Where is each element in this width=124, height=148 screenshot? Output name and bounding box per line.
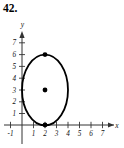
- y-axis-label: y: [20, 20, 25, 29]
- x-tick-label-6: 6: [89, 130, 93, 138]
- coordinate-plot: -1 1 2 3 4 5 6 7 1 2 3 4 5 6 7 x y: [0, 0, 124, 148]
- y-tick-label-1: 1: [12, 110, 16, 118]
- x-tick-label-2: 2: [43, 130, 47, 138]
- axes-group: [4, 31, 114, 144]
- y-tick-label-7: 7: [12, 39, 16, 47]
- x-tick-label-4: 4: [66, 130, 70, 138]
- y-axis-tick-labels: 1 2 3 4 5 6 7: [11, 39, 16, 118]
- y-tick-label-6: 6: [12, 51, 16, 59]
- x-axis-arrowhead: [108, 122, 114, 127]
- x-tick-label--1: -1: [8, 130, 14, 138]
- x-axis-label: x: [114, 121, 119, 130]
- x-tick-label-1: 1: [32, 130, 36, 138]
- point-bottom-vertex: [43, 123, 48, 128]
- x-tick-label-3: 3: [54, 130, 59, 138]
- point-center: [43, 88, 48, 93]
- marked-points-group: [43, 52, 48, 127]
- y-tick-label-3: 3: [11, 87, 16, 95]
- figure-container: 42. -1 1: [0, 0, 124, 148]
- x-tick-label-7: 7: [101, 130, 105, 138]
- point-top-vertex: [43, 52, 48, 57]
- y-tick-label-5: 5: [12, 63, 16, 71]
- y-axis-arrowhead: [19, 31, 24, 38]
- y-tick-label-4: 4: [12, 75, 16, 83]
- y-tick-label-2: 2: [12, 98, 16, 106]
- x-tick-label-5: 5: [78, 130, 82, 138]
